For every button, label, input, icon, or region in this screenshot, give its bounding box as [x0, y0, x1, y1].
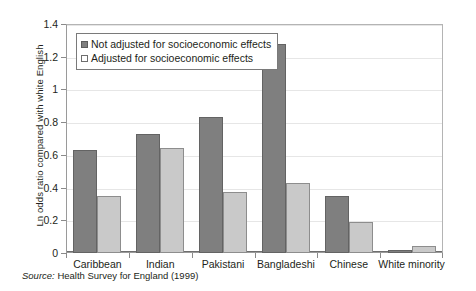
y-axis-tick-label: 0 [52, 247, 58, 259]
y-axis-tick-label: 0.4 [43, 182, 58, 194]
bar-group [380, 24, 443, 253]
y-axis-tick-label: 0.2 [43, 214, 58, 226]
bar [286, 183, 310, 253]
y-axis-tick-label: 1.4 [43, 18, 58, 30]
y-axis-tick-labels: 00.20.40.60.811.21.4 [0, 24, 66, 253]
x-axis-tick-label: Caribbean [73, 258, 121, 270]
bar [223, 192, 247, 253]
x-axis-tick-label: Bangladeshi [257, 258, 315, 270]
bar-group [317, 24, 380, 253]
bar [136, 134, 160, 253]
bar [199, 117, 223, 253]
bar [73, 150, 97, 253]
legend-item-not-adjusted: Not adjusted for socioeconomic effects [81, 37, 271, 51]
y-axis-tick-label: 1.2 [43, 51, 58, 63]
legend-item-adjusted: Adjusted for socioeconomic effects [81, 51, 271, 65]
y-axis-tick-label: 1 [52, 83, 58, 95]
bar [349, 222, 373, 253]
legend-label-not-adjusted: Not adjusted for socioeconomic effects [91, 38, 271, 50]
source-text: Health Survey for England (1999) [55, 270, 199, 281]
x-axis-tick-label: Chinese [329, 258, 368, 270]
bar [160, 148, 184, 254]
source-label: Source: [22, 270, 55, 281]
x-axis-tick-label: White minority [378, 258, 445, 270]
legend-swatch-icon-not-adjusted [81, 41, 88, 48]
y-axis-tick-label: 0.8 [43, 116, 58, 128]
x-axis-tick-label: Indian [146, 258, 175, 270]
y-axis-tick-label: 0.6 [43, 149, 58, 161]
bar [262, 44, 286, 253]
legend: Not adjusted for socioeconomic effects A… [76, 33, 278, 70]
x-axis-tick-label: Pakistani [202, 258, 245, 270]
legend-swatch-icon-adjusted [81, 55, 88, 62]
bar [97, 196, 121, 253]
bar [325, 196, 349, 253]
source-note: Source: Health Survey for England (1999) [22, 270, 198, 281]
bar-chart-figure: Ln odds ratio compared with white Englis… [0, 0, 476, 291]
legend-label-adjusted: Adjusted for socioeconomic effects [91, 52, 253, 64]
